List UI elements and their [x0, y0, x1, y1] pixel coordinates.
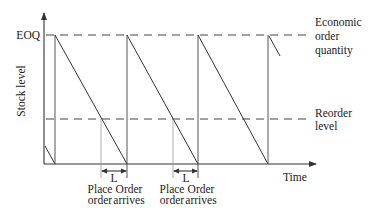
eoq-diagram: Stock level EOQ Time Economic order quan…	[0, 0, 379, 218]
eoq-label-line-2: order	[315, 30, 339, 42]
order-arrives-label-2b: arrives	[185, 194, 217, 206]
x-axis-label: Time	[283, 171, 307, 183]
order-arrives-label-1b: arrives	[113, 194, 145, 206]
reorder-label-line-1: Reorder	[315, 107, 352, 119]
eoq-label-line-1: Economic	[315, 16, 362, 28]
eoq-tick-label: EOQ	[16, 29, 40, 41]
y-axis-label: Stock level	[15, 65, 27, 116]
reorder-label-line-2: level	[315, 120, 337, 132]
place-order-label-1b: order	[88, 194, 112, 206]
stock-sawtooth	[45, 35, 280, 178]
eoq-label-line-3: quantity	[315, 44, 353, 57]
place-order-label-2b: order	[160, 194, 184, 206]
